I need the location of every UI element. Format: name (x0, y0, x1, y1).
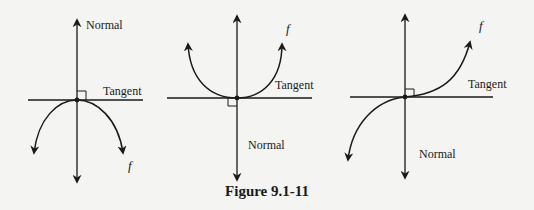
curve-label: f (128, 158, 134, 173)
normal-label: Normal (419, 147, 456, 161)
tangent-label: Tangent (468, 77, 507, 91)
curve-label: f (286, 21, 292, 36)
tangent-label: Tangent (103, 84, 142, 98)
curve-f (34, 100, 123, 153)
curve-label: f (479, 18, 485, 33)
tangent-label: Tangent (275, 78, 314, 92)
normal-label: Normal (248, 138, 285, 152)
panel-concave-up: Tangent Normal f (167, 16, 314, 180)
panel-concave-down: Normal Tangent f (28, 18, 143, 182)
curve-f (188, 44, 282, 98)
normal-label: Normal (86, 18, 123, 32)
point-of-tangency (235, 96, 240, 101)
curve-f (348, 42, 470, 160)
figure-tangent-normal: Normal Tangent f Tangent Normal f Tangen… (0, 0, 534, 210)
figure-caption: Figure 9.1-11 (225, 183, 309, 199)
point-of-tangency (75, 98, 80, 103)
point-of-tangency (403, 95, 408, 100)
panel-inflection: Tangent Normal f (348, 15, 507, 178)
